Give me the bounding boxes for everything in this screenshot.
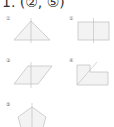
answer-text: 1. (②, ⑤): [2, 0, 65, 10]
parallelogram-icon: [12, 62, 57, 88]
triangle-icon: [12, 18, 52, 43]
item-label-1: ①: [6, 15, 10, 21]
rectangle-icon: [75, 18, 111, 43]
item-label-2: ②: [69, 15, 73, 21]
item-label-4: ④: [69, 57, 73, 63]
pentagon-icon: [12, 103, 52, 127]
item-label-5: ⑤: [6, 101, 10, 107]
l-shape-icon: [75, 62, 111, 88]
item-label-3: ③: [6, 57, 10, 63]
